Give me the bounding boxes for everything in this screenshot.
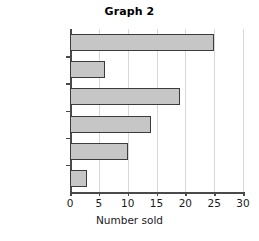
x-axis-tick [99,192,101,196]
plot-area: BagsJumpersT-shirtsSkirtsJeansJackets [70,29,243,192]
gridline [243,29,244,192]
bar-row: T-shirts [70,83,243,110]
x-axis-tick-label: 5 [84,197,114,209]
bar [70,34,214,51]
y-axis-tick [66,83,70,85]
x-axis-tick-label: 15 [142,197,172,209]
bar-chart: Graph 2 BagsJumpersT-shirtsSkirtsJeansJa… [0,0,259,241]
y-axis-tick [66,111,70,113]
x-axis-tick-label: 0 [55,197,85,209]
x-axis-tick [214,192,216,196]
x-axis-tick [157,192,159,196]
bar [70,170,87,187]
x-axis-tick [128,192,130,196]
y-axis-tick [66,165,70,167]
bar-row: Jeans [70,138,243,165]
x-axis-title: Number sold [0,214,259,226]
bar-row: Skirts [70,111,243,138]
bar [70,61,105,78]
bar-row: Jumpers [70,56,243,83]
bar [70,88,180,105]
x-axis-tick [185,192,187,196]
x-axis-tick-label: 25 [199,197,229,209]
bar [70,116,151,133]
chart-title: Graph 2 [0,5,259,18]
bar [70,143,128,160]
x-axis-tick-label: 10 [113,197,143,209]
x-axis-tick [243,192,245,196]
x-axis-tick-label: 30 [228,197,258,209]
bar-row: Bags [70,29,243,56]
y-axis-tick [66,56,70,58]
y-axis-tick [66,138,70,140]
x-axis-tick-label: 20 [170,197,200,209]
x-axis-tick [70,192,72,196]
bar-row: Jackets [70,165,243,192]
